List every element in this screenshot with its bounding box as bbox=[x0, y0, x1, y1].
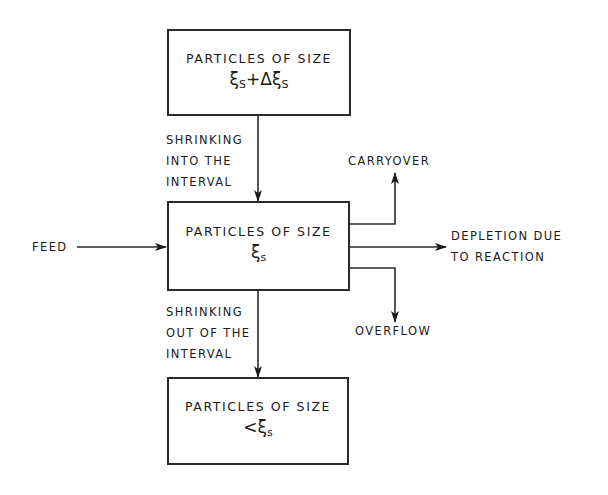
box-middle-symbol: ξs bbox=[251, 241, 266, 269]
box-particles-larger: PARTICLES OF SIZE ξS+ΔξS bbox=[167, 29, 351, 116]
box-upper-symbol: ξS+ΔξS bbox=[230, 68, 289, 96]
label-depletion: DEPLETION DUE TO REACTION bbox=[451, 226, 562, 268]
arrow-overflow bbox=[349, 268, 395, 322]
label-overflow: OVERFLOW bbox=[355, 321, 431, 342]
box-middle-title: PARTICLES OF SIZE bbox=[185, 223, 331, 241]
label-carryover: CARRYOVER bbox=[348, 151, 430, 172]
box-particles-smaller: PARTICLES OF SIZE <ξs bbox=[167, 377, 349, 465]
box-lower-title: PARTICLES OF SIZE bbox=[185, 398, 331, 416]
arrow-carryover bbox=[349, 173, 395, 224]
label-feed: FEED bbox=[32, 237, 68, 258]
box-particles-current: PARTICLES OF SIZE ξs bbox=[167, 201, 350, 291]
box-upper-title: PARTICLES OF SIZE bbox=[186, 50, 332, 68]
label-shrinking-into: SHRINKING INTO THE INTERVAL bbox=[166, 130, 243, 193]
label-shrinking-out: SHRINKING OUT OF THE INTERVAL bbox=[166, 302, 250, 365]
box-lower-symbol: <ξs bbox=[243, 416, 272, 444]
